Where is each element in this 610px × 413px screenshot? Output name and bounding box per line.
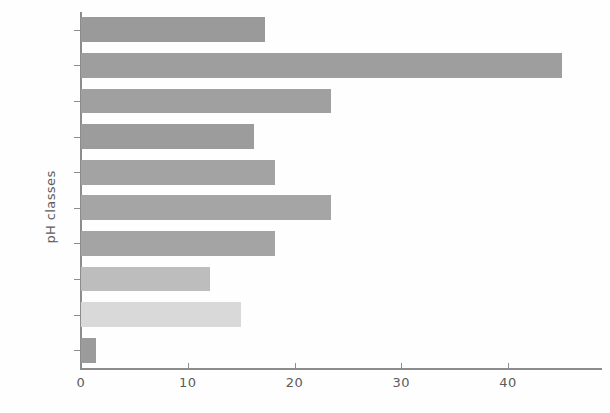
bar-row: [81, 231, 602, 256]
y-tick-mark: [74, 208, 81, 209]
x-tick-label: 10: [179, 375, 197, 390]
bar[interactable]: [81, 17, 265, 42]
y-tick-mark: [74, 350, 81, 351]
y-tick-mark: [74, 243, 81, 244]
bar-row: [81, 89, 602, 114]
bar-row: [81, 160, 602, 185]
x-tick-label: 40: [499, 375, 517, 390]
bar[interactable]: [81, 160, 275, 185]
y-tick-mark: [74, 101, 81, 102]
bar-chart: pH classes >7.67.1–7.56.6–7.06.1–6.55.6–…: [0, 0, 610, 413]
bar-row: [81, 267, 602, 292]
x-tick-mark: [401, 363, 402, 369]
x-tick-mark: [81, 363, 82, 369]
x-tick-mark: [295, 363, 296, 369]
bar-row: [81, 124, 602, 149]
bar[interactable]: [81, 267, 210, 292]
y-axis-title: pH classes: [43, 170, 58, 243]
bar[interactable]: [81, 302, 241, 327]
y-tick-mark: [74, 172, 81, 173]
y-tick-mark: [74, 279, 81, 280]
bar[interactable]: [81, 338, 96, 363]
y-tick-mark: [74, 137, 81, 138]
x-tick-label: 0: [77, 375, 86, 390]
bar-row: [81, 302, 602, 327]
x-tick-mark: [188, 363, 189, 369]
y-tick-mark: [74, 315, 81, 316]
bar[interactable]: [81, 231, 275, 256]
x-tick-label: 20: [286, 375, 304, 390]
y-tick-mark: [74, 30, 81, 31]
bar-row: [81, 195, 602, 220]
bar-row: [81, 338, 602, 363]
x-axis-line: [80, 368, 602, 370]
bar[interactable]: [81, 53, 562, 78]
x-tick-label: 30: [393, 375, 411, 390]
bar-row: [81, 53, 602, 78]
x-tick-mark: [508, 363, 509, 369]
bar[interactable]: [81, 89, 331, 114]
y-tick-mark: [74, 65, 81, 66]
bar-row: [81, 17, 602, 42]
bar[interactable]: [81, 124, 254, 149]
bar[interactable]: [81, 195, 331, 220]
plot-area: [81, 12, 602, 368]
